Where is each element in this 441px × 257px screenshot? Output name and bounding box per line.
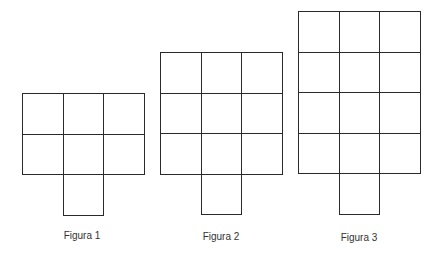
grid-square [22, 134, 64, 176]
tab-square [339, 173, 381, 215]
grid-square [160, 93, 202, 135]
figure-label: Figura 1 [42, 230, 122, 241]
grid-square [201, 93, 243, 135]
grid-square [103, 93, 145, 135]
grid-square [379, 133, 421, 175]
figure-label: Figura 2 [181, 231, 261, 242]
grid-square [379, 11, 421, 53]
grid-square [298, 133, 340, 175]
grid-square [339, 52, 381, 94]
grid-square [201, 133, 243, 175]
grid-square [63, 93, 105, 135]
tab-square [201, 174, 243, 216]
grid-square [103, 134, 145, 176]
grid-square [160, 133, 202, 175]
grid-square [241, 133, 283, 175]
grid-square [241, 52, 283, 94]
grid-square [339, 92, 381, 134]
grid-square [160, 52, 202, 94]
grid-square [339, 133, 381, 175]
grid-square [22, 93, 64, 135]
grid-square [63, 134, 105, 176]
grid-square [339, 11, 381, 53]
grid-square [298, 52, 340, 94]
grid-square [379, 52, 421, 94]
grid-square [298, 11, 340, 53]
grid-square [241, 93, 283, 135]
grid-square [298, 92, 340, 134]
tab-square [63, 174, 105, 216]
grid-square [379, 92, 421, 134]
grid-square [201, 52, 243, 94]
figure-label: Figura 3 [319, 232, 399, 243]
